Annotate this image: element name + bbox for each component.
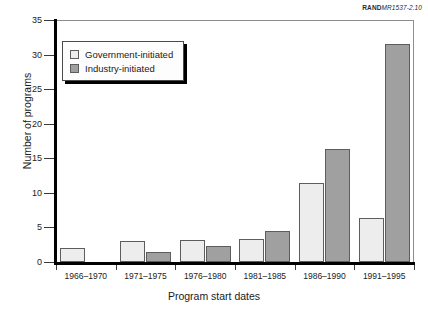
rand-brand-label: RAND bbox=[362, 4, 381, 11]
bar-industry-initiated bbox=[146, 252, 171, 262]
x-axis-category-label: 1971–1975 bbox=[116, 272, 176, 281]
legend-swatch-industry-icon bbox=[70, 64, 79, 73]
y-axis-tick-label: 10 bbox=[18, 189, 42, 198]
bar-government-initiated bbox=[359, 218, 384, 262]
y-axis-tick bbox=[44, 158, 54, 159]
y-axis-tick bbox=[44, 55, 54, 56]
y-axis-tick-label: 20 bbox=[18, 120, 42, 129]
x-axis-title: Program start dates bbox=[0, 290, 428, 302]
y-axis-tick-label: 35 bbox=[18, 16, 42, 25]
bar-government-initiated bbox=[239, 239, 264, 263]
legend-label-industry: Industry-initiated bbox=[85, 63, 155, 74]
y-axis-tick bbox=[44, 262, 54, 263]
bar-government-initiated bbox=[120, 241, 145, 262]
bar-government-initiated bbox=[60, 248, 85, 262]
bar-industry-initiated bbox=[385, 44, 410, 262]
bar-industry-initiated bbox=[325, 149, 350, 262]
y-axis-tick bbox=[44, 20, 54, 21]
x-axis-tick bbox=[56, 265, 57, 270]
y-axis-tick bbox=[44, 124, 54, 125]
x-axis-category-label: 1986–1990 bbox=[295, 272, 355, 281]
legend-swatch-government-icon bbox=[70, 50, 79, 59]
y-axis-tick-label: 15 bbox=[18, 154, 42, 163]
y-axis-tick-label: 0 bbox=[18, 258, 42, 267]
y-axis-tick bbox=[44, 193, 54, 194]
bar-government-initiated bbox=[299, 183, 324, 262]
figure-bar-chart: RANDMR1537-2.10 Number of programs Progr… bbox=[0, 0, 428, 310]
x-axis-tick bbox=[295, 265, 296, 270]
bar-government-initiated bbox=[180, 240, 205, 262]
legend-item-government: Government-initiated bbox=[70, 47, 173, 61]
x-axis-tick bbox=[414, 265, 415, 270]
x-axis-category-label: 1981–1985 bbox=[235, 272, 295, 281]
x-axis-tick bbox=[354, 265, 355, 270]
y-axis-tick bbox=[44, 227, 54, 228]
rand-document-credit: RANDMR1537-2.10 bbox=[362, 4, 422, 11]
y-axis-tick-label: 25 bbox=[18, 85, 42, 94]
x-axis-category-label: 1966–1970 bbox=[56, 272, 116, 281]
x-axis-tick bbox=[235, 265, 236, 270]
x-axis-tick bbox=[116, 265, 117, 270]
chart-legend: Government-initiated Industry-initiated bbox=[62, 41, 184, 81]
y-axis-tick bbox=[44, 89, 54, 90]
x-axis-category-label: 1991–1995 bbox=[354, 272, 414, 281]
x-axis-category-label: 1976–1980 bbox=[175, 272, 235, 281]
legend-label-government: Government-initiated bbox=[85, 49, 173, 60]
x-axis-tick bbox=[175, 265, 176, 270]
rand-document-number: MR1537-2.10 bbox=[382, 4, 422, 11]
bar-industry-initiated bbox=[265, 231, 290, 262]
legend-item-industry: Industry-initiated bbox=[70, 61, 173, 75]
y-axis-tick-label: 5 bbox=[18, 223, 42, 232]
bar-industry-initiated bbox=[206, 246, 231, 262]
y-axis-tick-label: 30 bbox=[18, 51, 42, 60]
